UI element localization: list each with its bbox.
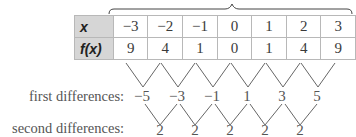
difference-lines (0, 0, 356, 137)
first-differences-label: first differences: (29, 88, 124, 105)
first-difference-value: 3 (272, 88, 292, 105)
second-difference-value: 2 (220, 122, 240, 137)
second-difference-value: 2 (255, 122, 275, 137)
first-difference-value: −5 (132, 88, 152, 105)
second-difference-value: 2 (150, 122, 170, 137)
second-difference-value: 2 (290, 122, 310, 137)
first-difference-value: 1 (237, 88, 257, 105)
first-difference-value: −1 (202, 88, 222, 105)
second-difference-value: 2 (185, 122, 205, 137)
second-differences-label: second differences: (12, 120, 124, 137)
first-difference-value: 5 (307, 88, 327, 105)
first-difference-value: −3 (167, 88, 187, 105)
